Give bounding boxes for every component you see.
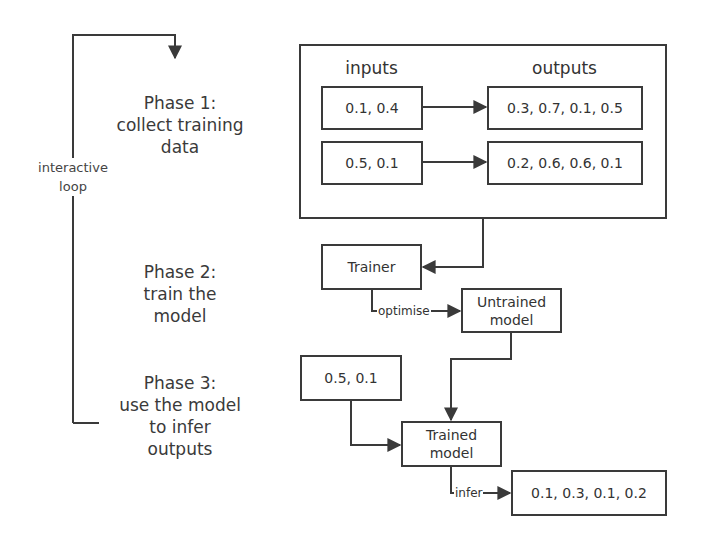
inference-input-box: 0.5, 0.1 bbox=[300, 355, 402, 401]
phase-2-line2: train the bbox=[110, 283, 250, 305]
trained-line2: model bbox=[430, 444, 474, 462]
data-to-trainer-arrow bbox=[423, 218, 483, 267]
phase-3-line3: to infer bbox=[105, 416, 255, 438]
trained-model-box: Trained model bbox=[401, 421, 502, 467]
untrained-model-box: Untrained model bbox=[461, 288, 562, 333]
phase-3-line4: outputs bbox=[105, 438, 255, 460]
phase-3-title: Phase 3: bbox=[105, 372, 255, 394]
inference-output-box: 0.1, 0.3, 0.1, 0.2 bbox=[511, 470, 667, 516]
phase-1-title: Phase 1: bbox=[110, 92, 250, 114]
trainer-box: Trainer bbox=[321, 244, 422, 290]
phase-1-label: Phase 1: collect training data bbox=[110, 92, 250, 158]
training-output-1: 0.3, 0.7, 0.1, 0.5 bbox=[487, 86, 643, 130]
phase-1-line2: collect training bbox=[110, 114, 250, 136]
phase-3-line2: use the model bbox=[105, 394, 255, 416]
trained-line1: Trained bbox=[426, 426, 477, 444]
inputs-header: inputs bbox=[321, 58, 422, 78]
phase-2-line3: model bbox=[110, 305, 250, 327]
phase-2-title: Phase 2: bbox=[110, 261, 250, 283]
phase-2-label: Phase 2: train the model bbox=[110, 261, 250, 327]
interactive-loop-label: interactive loop bbox=[30, 158, 116, 196]
loop-label-line2: loop bbox=[30, 177, 116, 196]
untrained-line2: model bbox=[490, 311, 534, 329]
training-input-1: 0.1, 0.4 bbox=[321, 86, 423, 130]
outputs-header: outputs bbox=[487, 58, 642, 78]
optimise-label: optimise bbox=[377, 304, 431, 318]
input-to-trained-arrow bbox=[351, 400, 400, 445]
loop-label-line1: interactive bbox=[30, 158, 116, 177]
untrained-line1: Untrained bbox=[477, 293, 546, 311]
training-output-2: 0.2, 0.6, 0.6, 0.1 bbox=[487, 141, 643, 185]
phase-1-line3: data bbox=[110, 136, 250, 158]
phase-3-label: Phase 3: use the model to infer outputs bbox=[105, 372, 255, 460]
training-input-2: 0.5, 0.1 bbox=[321, 141, 423, 185]
infer-label: infer bbox=[454, 486, 483, 500]
untrained-to-trained-arrow bbox=[451, 332, 511, 420]
